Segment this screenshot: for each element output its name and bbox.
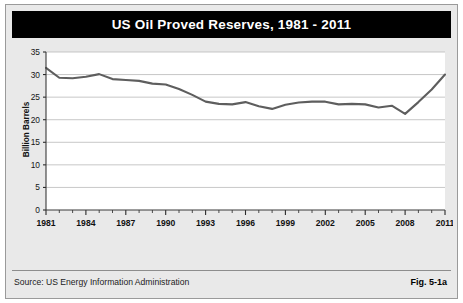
x-axis-ticks — [46, 210, 445, 215]
y-axis-tick-labels: 05101520253035 — [31, 47, 41, 215]
x-tick-label: 1999 — [276, 218, 295, 228]
x-tick-label: 1984 — [76, 218, 95, 228]
x-tick-label: 1996 — [236, 218, 255, 228]
source-note: Source: US Energy Information Administra… — [14, 277, 189, 287]
y-tick-label: 10 — [31, 160, 41, 170]
plot-wrapper: 05101520253035 1981198419871990199319961… — [12, 44, 451, 270]
y-tick-label: 30 — [31, 70, 41, 80]
x-axis-tick-labels: 1981198419871990199319961999200220052008… — [36, 218, 453, 228]
y-tick-label: 25 — [31, 92, 41, 102]
x-tick-label: 2002 — [316, 218, 335, 228]
x-tick-label: 2008 — [396, 218, 415, 228]
y-axis-title: Billion Barrels — [22, 100, 31, 160]
y-tick-label: 5 — [35, 182, 40, 192]
line-chart: 05101520253035 1981198419871990199319961… — [12, 44, 453, 240]
x-tick-label: 2005 — [356, 218, 375, 228]
y-tick-label: 20 — [31, 115, 41, 125]
y-tick-label: 0 — [35, 205, 40, 215]
x-tick-label: 1990 — [156, 218, 175, 228]
x-tick-label: 1981 — [36, 218, 55, 228]
figure-number: Fig. 5-1a — [410, 277, 447, 287]
chart-title-bar: US Oil Proved Reserves, 1981 - 2011 — [12, 11, 451, 38]
figure-root: US Oil Proved Reserves, 1981 - 2011 0510… — [0, 0, 463, 303]
x-tick-label: 1993 — [196, 218, 215, 228]
page-title: US Oil Proved Reserves, 1981 - 2011 — [112, 17, 352, 32]
figure-footer: Source: US Energy Information Administra… — [12, 270, 451, 292]
y-tick-label: 35 — [31, 47, 41, 57]
y-tick-label: 15 — [31, 137, 41, 147]
chart-area: 05101520253035 1981198419871990199319961… — [12, 44, 451, 270]
figure-frame: US Oil Proved Reserves, 1981 - 2011 0510… — [5, 4, 458, 299]
x-tick-label: 1987 — [116, 218, 135, 228]
x-tick-label: 2011 — [436, 218, 453, 228]
